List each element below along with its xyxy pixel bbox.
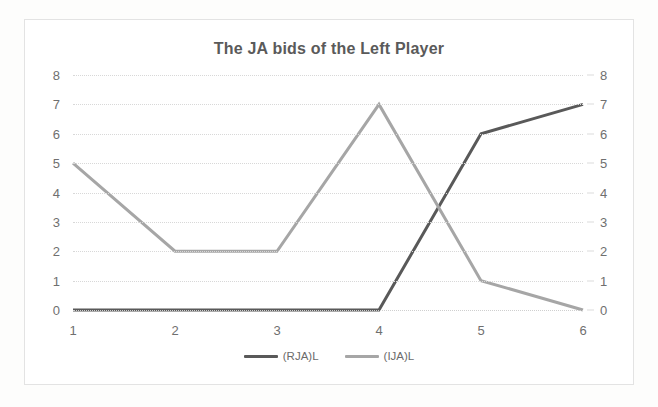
y-axis-tick-right: 3: [600, 215, 607, 228]
y-axis-tick-mark-right: [587, 221, 594, 222]
plot-area: 001122334455667788123456: [73, 75, 583, 310]
gridline: [73, 104, 583, 105]
legend-item[interactable]: (RJA)L: [244, 351, 319, 363]
gridline: [73, 310, 583, 311]
y-axis-tick-mark-right: [587, 104, 594, 105]
y-axis-tick-left: 2: [53, 245, 60, 258]
y-axis-tick-mark-right: [587, 192, 594, 193]
y-axis-tick-mark-right: [587, 310, 594, 311]
y-axis-tick-right: 6: [600, 127, 607, 140]
y-axis-tick-right: 7: [600, 98, 607, 111]
y-axis-tick-left: 5: [53, 157, 60, 170]
chart-container: The JA bids of the Left Player 001122334…: [24, 19, 634, 385]
chart-legend: (RJA)L(IJA)L: [25, 351, 633, 363]
y-axis-tick-left: 0: [53, 304, 60, 317]
gridline: [73, 193, 583, 194]
y-axis-tick-left: 8: [53, 69, 60, 82]
legend-label: (RJA)L: [283, 351, 319, 363]
y-axis-tick-mark-right: [587, 280, 594, 281]
x-axis-tick: 1: [69, 324, 76, 337]
gridline: [73, 163, 583, 164]
y-axis-tick-mark-right: [587, 75, 594, 76]
legend-label: (IJA)L: [384, 351, 415, 363]
gridline: [73, 281, 583, 282]
x-axis-tick: 5: [477, 324, 484, 337]
y-axis-tick-left: 3: [53, 215, 60, 228]
x-axis-tick: 4: [375, 324, 382, 337]
y-axis-tick-left: 1: [53, 274, 60, 287]
series-line: [73, 104, 583, 310]
x-axis-tick: 6: [579, 324, 586, 337]
y-axis-tick-right: 1: [600, 274, 607, 287]
y-axis-tick-right: 5: [600, 157, 607, 170]
y-axis-tick-left: 7: [53, 98, 60, 111]
chart-title: The JA bids of the Left Player: [25, 40, 633, 58]
y-axis-tick-mark-right: [587, 133, 594, 134]
y-axis-tick-left: 6: [53, 127, 60, 140]
legend-line-swatch: [244, 355, 278, 358]
y-axis-tick-right: 4: [600, 186, 607, 199]
gridline: [73, 251, 583, 252]
gridline: [73, 222, 583, 223]
gridline: [73, 134, 583, 135]
legend-line-swatch: [345, 355, 379, 358]
gridline: [73, 75, 583, 76]
legend-item[interactable]: (IJA)L: [345, 351, 415, 363]
y-axis-tick-mark-right: [587, 163, 594, 164]
y-axis-tick-mark-right: [587, 251, 594, 252]
y-axis-tick-right: 2: [600, 245, 607, 258]
y-axis-tick-right: 0: [600, 304, 607, 317]
y-axis-tick-left: 4: [53, 186, 60, 199]
series-line: [73, 104, 583, 310]
x-axis-tick: 3: [273, 324, 280, 337]
y-axis-tick-right: 8: [600, 69, 607, 82]
x-axis-tick: 2: [171, 324, 178, 337]
